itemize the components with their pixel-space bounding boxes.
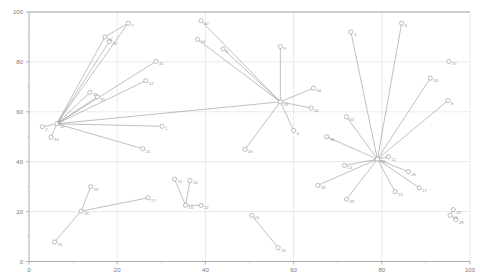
network-edge [280, 88, 313, 102]
data-point [55, 122, 59, 126]
point-labels: 7443341323531102341214014591834424453650… [45, 21, 464, 253]
data-point [325, 135, 329, 139]
network-edge [318, 159, 378, 185]
network-edge [377, 101, 448, 160]
network-edge [57, 124, 162, 126]
data-point [88, 90, 92, 94]
data-point-label: 7 [131, 23, 134, 28]
data-point-label: 34 [316, 88, 321, 93]
data-point-label: 28 [459, 220, 464, 225]
data-point [141, 147, 145, 151]
network-edge [57, 92, 90, 123]
data-point [428, 76, 432, 80]
network-edge [57, 124, 143, 149]
network-edge [377, 78, 430, 159]
data-point-label: 49 [350, 199, 355, 204]
data-point-label: 16 [189, 205, 194, 210]
x-tick-label: 60 [290, 267, 297, 273]
data-point [292, 128, 296, 132]
data-point-label: 2 [45, 127, 48, 132]
data-point [243, 147, 247, 151]
network-edge [57, 97, 98, 124]
network-edge [57, 41, 109, 123]
data-point [199, 19, 203, 23]
data-point [79, 209, 83, 213]
data-point [451, 208, 455, 212]
data-point-label: 13 [398, 192, 403, 197]
data-point-label: 21 [146, 149, 151, 154]
data-point-label: 25 [58, 242, 63, 247]
data-point [221, 47, 225, 51]
y-tick-label: 100 [13, 9, 24, 15]
network-edge [105, 23, 128, 37]
network-edge [245, 102, 280, 149]
data-point-label: 47 [452, 61, 457, 66]
network-edge [57, 37, 105, 124]
data-point [250, 213, 254, 217]
data-point [49, 135, 53, 139]
y-tick-label: 60 [16, 109, 23, 115]
axes [26, 12, 470, 265]
data-point-label: 15 [178, 179, 183, 184]
data-point-label: 19 [84, 211, 89, 216]
data-point-label: 22 [204, 205, 209, 210]
x-tick-label: 40 [202, 267, 209, 273]
data-point [126, 21, 130, 25]
data-point [199, 203, 203, 207]
data-point [52, 240, 56, 244]
x-tick-label: 80 [378, 267, 385, 273]
data-point [146, 196, 150, 200]
data-point [446, 98, 450, 102]
data-point [103, 35, 107, 39]
data-point [154, 59, 158, 63]
data-point [278, 44, 282, 48]
data-point [344, 115, 348, 119]
data-point-label: 43 [193, 180, 198, 185]
data-point-label: 4 [297, 131, 300, 136]
data-point-label: 10 [60, 124, 65, 129]
data-point-label: 39 [380, 159, 385, 164]
data-point-label: 40 [204, 21, 209, 26]
network-edge [351, 32, 377, 159]
x-tick-label: 0 [27, 267, 31, 273]
data-point-label: 20 [255, 215, 260, 220]
data-point-label: 34 [54, 137, 59, 142]
y-tick-label: 0 [20, 259, 24, 265]
y-tick-label: 80 [16, 59, 23, 65]
y-tick-label: 40 [16, 159, 23, 165]
network-edge [81, 198, 148, 211]
data-point-label: 45 [248, 149, 253, 154]
data-point-label: 32 [149, 81, 154, 86]
network-edge [55, 211, 81, 242]
y-tick-label: 20 [16, 209, 23, 215]
data-point [393, 190, 397, 194]
network-edge [186, 180, 190, 205]
data-point [40, 125, 44, 129]
tick-labels: 020406080100020406080100 [13, 9, 476, 272]
network-edge [57, 23, 128, 124]
data-point-label: 42 [314, 108, 319, 113]
data-point-label: 1 [165, 126, 168, 131]
data-point-label: 8 [451, 101, 454, 106]
data-point-label: 12 [347, 165, 352, 170]
data-point-label: 14 [200, 39, 205, 44]
data-point [342, 163, 346, 167]
network-edge [57, 81, 146, 124]
data-point [311, 86, 315, 90]
x-tick-label: 20 [114, 267, 121, 273]
data-point-label: 3 [354, 32, 357, 37]
nodes [40, 19, 458, 250]
data-point [309, 106, 313, 110]
data-point-label: 17 [422, 188, 427, 193]
data-point-label: 30 [433, 78, 438, 83]
data-point [447, 59, 451, 63]
data-point [172, 177, 176, 181]
data-point [188, 178, 192, 182]
x-tick-label: 100 [465, 267, 476, 273]
data-point [89, 185, 93, 189]
data-point-label: 18 [283, 102, 288, 107]
network-edge [57, 102, 281, 124]
data-point-label: 35 [93, 92, 98, 97]
network-edge [201, 21, 280, 102]
data-point [160, 124, 164, 128]
